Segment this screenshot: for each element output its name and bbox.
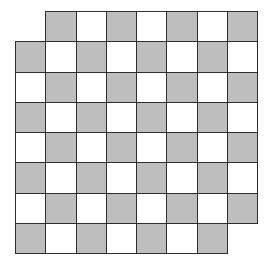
board-square-white — [76, 11, 107, 42]
board-square-white — [15, 72, 46, 103]
board-square-white — [227, 102, 258, 133]
board-square-gray — [15, 162, 46, 193]
board-square-white — [197, 132, 228, 163]
board-square-white — [45, 102, 76, 133]
board-square-gray — [136, 162, 167, 193]
board-square-white — [136, 193, 167, 224]
board-square-gray — [197, 162, 228, 193]
board-square-gray — [106, 11, 137, 42]
board-square-white — [197, 72, 228, 103]
board-square-gray — [45, 11, 76, 42]
board-square-white — [166, 102, 197, 133]
board-square-white — [166, 41, 197, 72]
board-square-gray — [15, 102, 46, 133]
mutilated-chessboard — [0, 0, 272, 261]
board-square-white — [166, 162, 197, 193]
board-square-white — [106, 223, 137, 254]
board-square-white — [76, 193, 107, 224]
board-square-gray — [15, 223, 46, 254]
board-square-gray — [197, 102, 228, 133]
board-square-gray — [106, 132, 137, 163]
board-square-gray — [197, 223, 228, 254]
board-square-gray — [76, 102, 107, 133]
board-square-gray — [166, 193, 197, 224]
board-square-gray — [15, 41, 46, 72]
board-square-gray — [45, 132, 76, 163]
board-square-white — [136, 72, 167, 103]
board-square-white — [106, 162, 137, 193]
board-square-white — [136, 132, 167, 163]
board-square-white — [227, 41, 258, 72]
board-square-white — [166, 223, 197, 254]
board-square-white — [106, 102, 137, 133]
board-square-gray — [227, 132, 258, 163]
board-square-white — [15, 132, 46, 163]
board-square-gray — [197, 41, 228, 72]
board-square-gray — [166, 72, 197, 103]
board-square-gray — [227, 11, 258, 42]
board-square-white — [15, 193, 46, 224]
board-square-gray — [45, 193, 76, 224]
board-square-gray — [136, 41, 167, 72]
board-square-gray — [136, 223, 167, 254]
board-square-white — [45, 223, 76, 254]
board-square-gray — [106, 193, 137, 224]
board-square-gray — [76, 41, 107, 72]
board-square-white — [227, 162, 258, 193]
board-square-gray — [227, 193, 258, 224]
board-square-gray — [76, 223, 107, 254]
board-square-white — [76, 132, 107, 163]
board-square-gray — [106, 72, 137, 103]
board-square-white — [136, 11, 167, 42]
board-square-gray — [76, 162, 107, 193]
board-square-gray — [166, 132, 197, 163]
board-square-gray — [45, 72, 76, 103]
board-square-white — [76, 72, 107, 103]
board-square-white — [197, 193, 228, 224]
board-square-white — [45, 162, 76, 193]
board-square-gray — [136, 102, 167, 133]
board-square-gray — [227, 72, 258, 103]
board-square-white — [45, 41, 76, 72]
board-square-white — [106, 41, 137, 72]
board-square-white — [197, 11, 228, 42]
board-square-gray — [166, 11, 197, 42]
